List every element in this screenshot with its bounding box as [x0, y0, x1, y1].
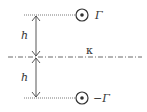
lower-h-label: h	[21, 71, 28, 84]
top-vortex-label: Γ	[94, 9, 103, 22]
lower-distance-arrow	[32, 58, 40, 97]
upper-h-label: h	[21, 29, 28, 42]
bottom-vortex-label: −Γ	[93, 92, 110, 105]
upper-distance-arrow	[32, 16, 40, 56]
top-vortex-icon	[76, 9, 88, 21]
kappa-label: κ	[86, 44, 93, 57]
bottom-vortex-icon	[76, 92, 88, 104]
vortex-diagram: Γ −Γ h h κ	[0, 0, 147, 112]
